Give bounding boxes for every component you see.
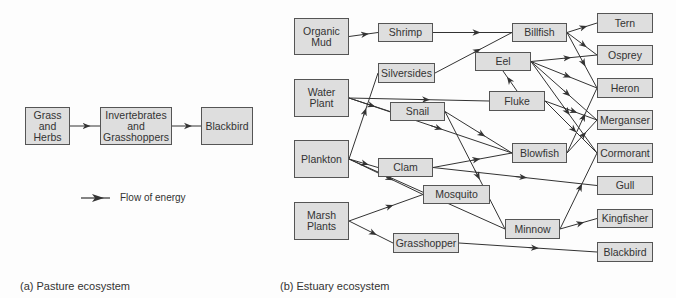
arrow-icon <box>80 193 114 203</box>
arrowhead-icon <box>571 127 574 130</box>
node-marsh-plants: Marsh Plants <box>294 202 349 240</box>
food-web-figure: Grass and HerbsInvertebrates and Grassho… <box>0 0 676 298</box>
arrowhead-icon <box>509 80 510 81</box>
node-mosquito: Mosquito <box>423 185 490 204</box>
arrowhead-icon <box>364 112 365 116</box>
arrowhead-icon <box>386 206 390 207</box>
node-tern: Tern <box>597 13 653 33</box>
arrowhead-icon <box>475 170 478 176</box>
arrowhead-icon <box>371 232 373 233</box>
node-minnow: Minnow <box>505 219 560 239</box>
legend: Flow of energy <box>80 192 186 203</box>
node-gull: Gull <box>597 176 653 195</box>
node-plankton: Plankton <box>294 140 349 178</box>
node-cormorant: Cormorant <box>597 143 653 163</box>
caption-pasture: (a) Pasture ecosystem <box>20 280 130 292</box>
arrowhead-icon <box>582 135 584 137</box>
node-shrimp: Shrimp <box>378 23 433 42</box>
arrowhead-icon <box>582 44 584 45</box>
node-grasshopper: Grasshopper <box>393 233 459 253</box>
arrowhead-icon <box>564 91 567 94</box>
node-merganser: Merganser <box>597 110 653 130</box>
arrowhead-icon <box>473 160 477 161</box>
node-blackbird-b: Blackbird <box>597 242 653 262</box>
arrowhead-icon <box>571 111 574 112</box>
caption-estuary: (b) Estuary ecosystem <box>280 280 389 292</box>
node-blackbird-a: Blackbird <box>201 107 253 145</box>
node-osprey: Osprey <box>597 45 653 65</box>
arrowhead-icon <box>479 132 482 134</box>
node-water-plant: Water Plant <box>294 79 349 117</box>
arrowhead-icon <box>582 117 584 120</box>
node-organic-mud: Organic Mud <box>294 18 349 55</box>
arrowhead-icon <box>564 75 567 76</box>
arrowhead-icon <box>431 126 439 129</box>
node-silversides: Silversides <box>378 63 435 83</box>
node-fluke: Fluke <box>489 91 545 111</box>
arrowhead-icon <box>579 223 581 224</box>
node-heron: Heron <box>597 78 653 98</box>
node-eel: Eel <box>475 52 531 71</box>
node-grass: Grass and Herbs <box>25 107 70 145</box>
node-blowfish: Blowfish <box>512 143 567 163</box>
arrowhead-icon <box>579 187 581 191</box>
arrowhead-icon <box>515 177 523 178</box>
node-kingfisher: Kingfisher <box>597 209 653 228</box>
node-invert: Invertebrates and Grasshoppers <box>100 107 172 145</box>
node-billfish: Billfish <box>512 23 567 42</box>
legend-label: Flow of energy <box>120 192 186 203</box>
arrowhead-icon <box>582 60 584 63</box>
node-clam: Clam <box>378 158 433 177</box>
node-snail: Snail <box>390 102 445 121</box>
